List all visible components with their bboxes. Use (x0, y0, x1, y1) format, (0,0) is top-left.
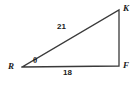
side-label-hypotenuse: 21 (57, 23, 66, 31)
angle-label-theta: θ (33, 57, 37, 65)
vertex-label-k: K (123, 4, 129, 13)
geometry-diagram: R F K 21 18 θ (0, 0, 140, 88)
vertex-label-r: R (8, 62, 14, 71)
side-label-base: 18 (63, 69, 72, 77)
vertex-label-f: F (123, 61, 129, 70)
